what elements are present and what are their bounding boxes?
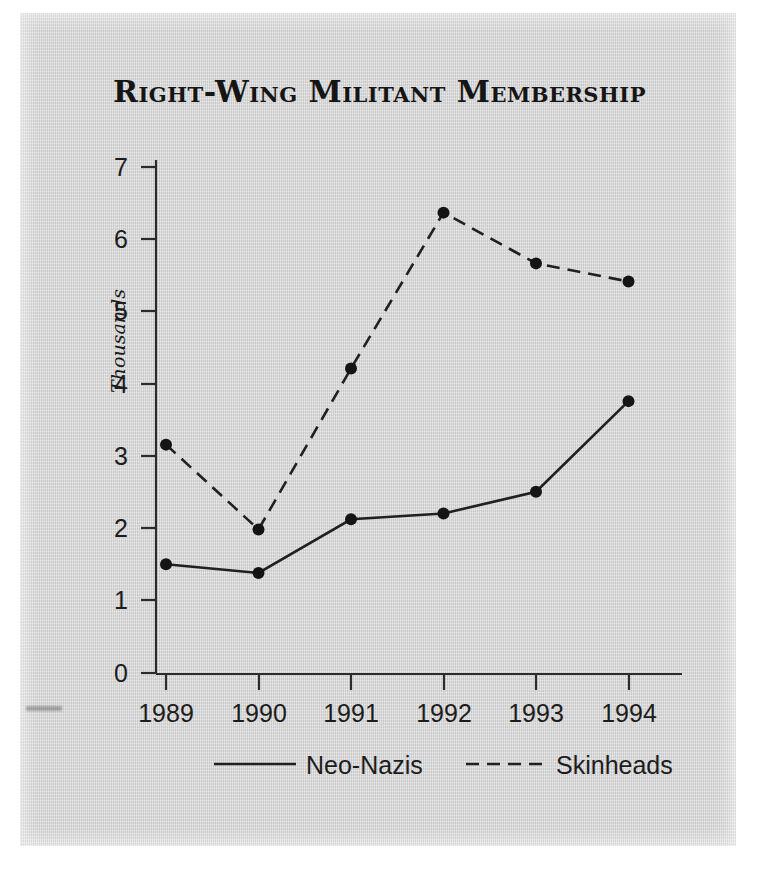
legend-label-neo-nazis: Neo-Nazis (306, 751, 423, 779)
scanned-page: Right-Wing Militant Membership Thousands… (0, 0, 759, 872)
y-tick-label-7: 7 (114, 153, 128, 181)
data-point-marker (345, 363, 357, 375)
legend-label-skinheads: Skinheads (556, 751, 673, 779)
series-line-skinheads (166, 213, 629, 530)
x-tick-label-1994: 1994 (601, 699, 657, 727)
x-axis-ticks (166, 674, 629, 690)
y-tick-label-0: 0 (114, 659, 128, 687)
data-point-marker (438, 508, 450, 520)
data-point-marker (623, 276, 635, 288)
series-markers-neo-nazis (160, 395, 635, 579)
data-point-marker (253, 523, 265, 535)
x-tick-label-1990: 1990 (231, 699, 287, 727)
y-tick-label-5: 5 (114, 297, 128, 325)
data-point-marker (530, 486, 542, 498)
y-axis-ticks (141, 167, 156, 673)
y-tick-label-3: 3 (114, 442, 128, 470)
data-point-marker (160, 558, 172, 570)
data-point-marker (530, 257, 542, 269)
x-tick-label-1992: 1992 (416, 699, 472, 727)
data-point-marker (253, 567, 265, 579)
x-tick-label-1989: 1989 (138, 699, 194, 727)
data-point-marker (623, 395, 635, 407)
y-tick-label-1: 1 (114, 586, 128, 614)
x-tick-label-1991: 1991 (323, 699, 379, 727)
x-axis-tick-labels: 1989 1990 1991 1992 1993 1994 (138, 699, 657, 727)
y-tick-label-4: 4 (114, 370, 128, 398)
legend: Neo-Nazis Skinheads (214, 751, 673, 779)
data-point-marker (160, 439, 172, 451)
data-point-marker (345, 513, 357, 525)
x-tick-label-1993: 1993 (508, 699, 564, 727)
data-point-marker (438, 207, 450, 219)
line-chart-plot: 0 1 2 3 4 5 6 7 1989 1990 1991 1992 1993… (0, 0, 759, 872)
y-axis-tick-labels: 0 1 2 3 4 5 6 7 (114, 153, 128, 687)
series-line-neo-nazis (166, 401, 629, 573)
y-tick-label-2: 2 (114, 514, 128, 542)
series-markers-skinheads (160, 207, 635, 536)
y-tick-label-6: 6 (114, 225, 128, 253)
